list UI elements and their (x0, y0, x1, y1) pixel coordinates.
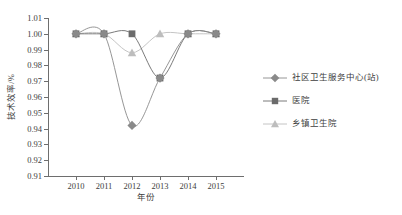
y-tick-label: 0.95 (27, 109, 42, 118)
legend-marker-square-icon (262, 95, 288, 107)
y-axis-title: 技术效率/% (4, 74, 16, 119)
series-1 (71, 27, 220, 130)
legend-item-3[interactable]: 乡镇卫生院 (262, 112, 402, 135)
x-tick-label: 2014 (180, 182, 197, 191)
legend-label: 医院 (292, 96, 310, 105)
x-axis-title: 年份 (137, 190, 155, 202)
legend-marker-diamond-icon (262, 72, 288, 84)
x-tick-mark (132, 176, 133, 180)
data-point-diamond (127, 121, 136, 130)
data-point-square (129, 30, 136, 37)
y-tick-mark (44, 176, 48, 177)
y-tick-label: 0.98 (27, 61, 42, 70)
series-2 (73, 30, 220, 81)
x-tick-mark (216, 176, 217, 180)
chart-figure: 技术效率/% 年份 1.011.000.990.980.970.960.950.… (0, 0, 402, 215)
y-tick-label: 0.93 (27, 140, 42, 149)
y-tick-label: 0.99 (27, 45, 42, 54)
series-line (76, 31, 216, 79)
legend-label: 社区卫生服务中心(站) (292, 73, 379, 82)
x-tick-label: 2011 (96, 182, 113, 191)
x-axis-line (48, 176, 244, 177)
x-tick-mark (104, 176, 105, 180)
y-tick-label: 0.94 (27, 124, 42, 133)
legend-marker-triangle-icon (262, 118, 288, 130)
x-tick-label: 2012 (124, 182, 141, 191)
series-line (76, 27, 216, 126)
y-tick-label: 0.92 (27, 156, 42, 165)
x-tick-mark (76, 176, 77, 180)
legend-item-2[interactable]: 医院 (262, 89, 402, 112)
y-tick-label: 1.01 (27, 14, 42, 23)
chart-legend: 社区卫生服务中心(站)医院乡镇卫生院 (262, 66, 402, 135)
x-tick-label: 2013 (152, 182, 169, 191)
x-tick-label: 2010 (68, 182, 85, 191)
x-tick-mark (160, 176, 161, 180)
legend-item-1[interactable]: 社区卫生服务中心(站) (262, 66, 402, 89)
y-tick-label: 0.91 (27, 172, 42, 181)
plot-area: 1.011.000.990.980.970.960.950.940.930.92… (48, 18, 244, 176)
y-tick-label: 0.97 (27, 77, 42, 86)
legend-label: 乡镇卫生院 (292, 119, 337, 128)
x-tick-label: 2015 (208, 182, 225, 191)
x-tick-mark (188, 176, 189, 180)
series-layer (48, 18, 244, 176)
series-line (76, 32, 216, 52)
y-tick-label: 1.00 (27, 30, 42, 39)
y-tick-label: 0.96 (27, 93, 42, 102)
